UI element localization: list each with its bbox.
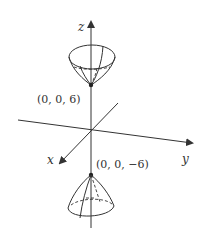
x-axis-label: x xyxy=(47,153,54,167)
upper-vertex-point xyxy=(89,83,93,87)
hyperboloid-diagram: z y x (0, 0, 6) (0, 0, −6) xyxy=(0,0,202,240)
x-axis xyxy=(60,103,118,163)
y-axis xyxy=(18,120,192,143)
y-axis-label: y xyxy=(181,152,189,166)
z-axis-label: z xyxy=(77,20,85,34)
lower-vertex-label: (0, 0, −6) xyxy=(96,158,149,171)
upper-sheet xyxy=(69,45,115,87)
upper-vertex-label: (0, 0, 6) xyxy=(37,93,81,106)
